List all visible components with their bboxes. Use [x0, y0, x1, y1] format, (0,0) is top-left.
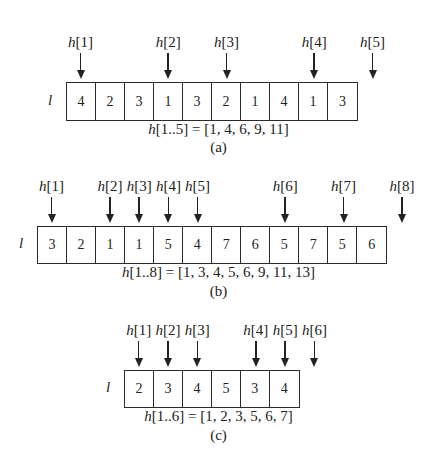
- array-cell: 3: [241, 371, 270, 407]
- pointer-c-1: h[1]: [124, 322, 154, 367]
- array-cell: 3: [125, 83, 154, 120]
- pointer-label: h[6]: [270, 178, 300, 195]
- array-row-c: 234534: [124, 370, 300, 408]
- pointer-a-3: h[3]: [212, 34, 242, 79]
- array-cell: 3: [38, 227, 67, 263]
- pointer-b-4: h[4]: [153, 178, 183, 223]
- pointer-b-8: h[8]: [387, 178, 417, 223]
- caption-a: (a): [0, 139, 437, 156]
- array-cell: 6: [241, 227, 270, 263]
- pointer-label: h[1]: [66, 34, 96, 51]
- pointer-label: h[4]: [241, 322, 271, 339]
- array-cell: 6: [357, 227, 386, 263]
- pointer-b-1: h[1]: [37, 178, 67, 223]
- pointer-label: h[2]: [153, 322, 183, 339]
- array-cell: 1: [299, 83, 328, 120]
- array-cell: 4: [270, 371, 299, 407]
- pointer-a-4: h[4]: [299, 34, 329, 79]
- pointer-b-2: h[2]: [95, 178, 125, 223]
- formula-c: h[1..6] = [1, 2, 3, 5, 6, 7]: [0, 408, 437, 425]
- caption-c: (c): [0, 427, 437, 444]
- pointer-label: h[3]: [124, 178, 154, 195]
- pointer-label: h[1]: [37, 178, 67, 195]
- array-cell: 4: [270, 83, 299, 120]
- pointer-a-5: h[5]: [358, 34, 388, 79]
- array-cell: 5: [270, 227, 299, 263]
- array-cell: 1: [96, 227, 125, 263]
- pointer-label: h[6]: [299, 322, 329, 339]
- pointer-label: h[5]: [358, 34, 388, 51]
- pointer-label: h[4]: [153, 178, 183, 195]
- array-cell: 2: [125, 371, 154, 407]
- pointer-label: h[3]: [212, 34, 242, 51]
- pointer-c-4: h[4]: [241, 322, 271, 367]
- array-cell: 5: [154, 227, 183, 263]
- pointer-b-6: h[6]: [270, 178, 300, 223]
- array-row-a: 4231321413: [66, 82, 358, 121]
- pointer-c-5: h[5]: [270, 322, 300, 367]
- array-cell: 2: [212, 83, 241, 120]
- pointer-a-2: h[2]: [153, 34, 183, 79]
- array-cell: 1: [125, 227, 154, 263]
- pointer-label: h[7]: [329, 178, 359, 195]
- pointer-label: h[5]: [270, 322, 300, 339]
- formula-a: h[1..5] = [1, 4, 6, 9, 11]: [0, 121, 437, 138]
- array-cell: 3: [154, 371, 183, 407]
- array-cell: 4: [183, 227, 212, 263]
- array-cell: 4: [67, 83, 96, 120]
- array-cell: 2: [96, 83, 125, 120]
- row-label-l: l: [106, 379, 110, 396]
- pointer-b-3: h[3]: [124, 178, 154, 223]
- array-row-b: 321154765756: [37, 226, 387, 264]
- pointer-c-6: h[6]: [299, 322, 329, 367]
- pointer-b-5: h[5]: [183, 178, 213, 223]
- pointer-label: h[1]: [124, 322, 154, 339]
- row-label-l: l: [19, 235, 23, 252]
- array-cell: 3: [183, 83, 212, 120]
- array-cell: 7: [212, 227, 241, 263]
- pointer-label: h[2]: [95, 178, 125, 195]
- array-cell: 3: [328, 83, 357, 120]
- array-cell: 7: [299, 227, 328, 263]
- array-cell: 4: [183, 371, 212, 407]
- pointer-a-1: h[1]: [66, 34, 96, 79]
- array-cell: 5: [328, 227, 357, 263]
- pointer-c-2: h[2]: [153, 322, 183, 367]
- pointer-label: h[8]: [387, 178, 417, 195]
- array-cell: 1: [154, 83, 183, 120]
- pointer-label: h[2]: [153, 34, 183, 51]
- array-cell: 2: [67, 227, 96, 263]
- pointer-c-3: h[3]: [182, 322, 212, 367]
- row-label-l: l: [48, 92, 52, 109]
- formula-b: h[1..8] = [1, 3, 4, 5, 6, 9, 11, 13]: [0, 264, 437, 281]
- pointer-label: h[3]: [182, 322, 212, 339]
- caption-b: (b): [0, 283, 437, 300]
- pointer-label: h[4]: [299, 34, 329, 51]
- array-cell: 5: [212, 371, 241, 407]
- pointer-b-7: h[7]: [329, 178, 359, 223]
- pointer-label: h[5]: [183, 178, 213, 195]
- array-cell: 1: [241, 83, 270, 120]
